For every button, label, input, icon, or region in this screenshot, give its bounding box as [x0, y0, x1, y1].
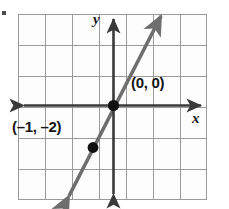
point-label-origin: (0, 0) [131, 74, 164, 91]
point-minus1-minus2 [88, 142, 99, 153]
point-origin [108, 100, 119, 111]
y-axis-label: y [93, 11, 100, 28]
graph-canvas [0, 0, 229, 209]
x-axis-label: x [192, 110, 200, 127]
coordinate-plane-figure: (0, 0) (–1, –2) y x [0, 0, 229, 209]
point-label-minus1-minus2: (–1, –2) [12, 118, 61, 135]
